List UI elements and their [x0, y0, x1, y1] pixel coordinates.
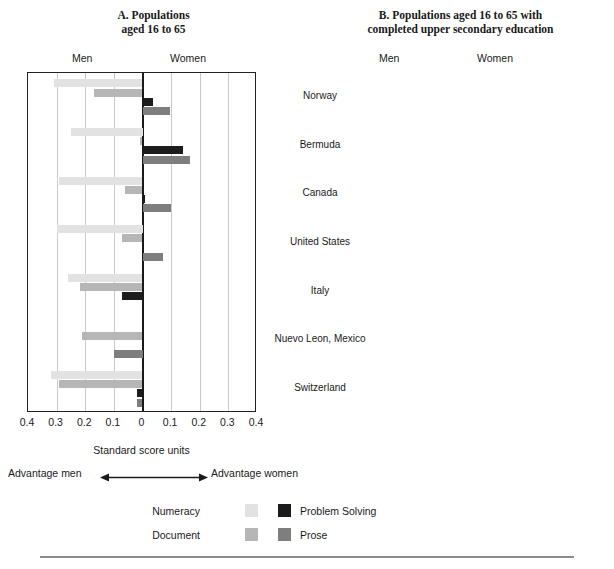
panel-a-advantage-men: Advantage men [8, 467, 82, 479]
legend-swatch-prose [278, 528, 291, 541]
country-label-column: NorwayBermudaCanadaUnited StatesItalyNue… [258, 72, 382, 412]
legend-item-problem_solving[interactable]: Problem Solving [0, 504, 614, 518]
panel-b-gender-headers: Men Women [307, 52, 614, 66]
legend-item-prose[interactable]: Prose [0, 528, 614, 542]
gridline [200, 73, 201, 411]
x-tick-a-8: 0.4 [244, 416, 268, 428]
panel-b-title-line1: B. Populations aged 16 to 65 with [307, 8, 614, 22]
country-label-norway: Norway [258, 90, 382, 101]
panel-a-gender-headers: Men Women [0, 52, 307, 66]
bar-a-nuevo-leon-mexico-document [82, 332, 142, 340]
bar-a-bermuda-problem-solving [143, 146, 183, 154]
legend-label-problem_solving: Problem Solving [300, 505, 376, 517]
panel-b-label-men: Men [379, 52, 399, 64]
bar-a-italy-document [80, 283, 143, 291]
x-tick-a-4: 0 [130, 416, 154, 428]
panel-a-double-arrow-icon [100, 473, 208, 482]
bar-a-norway-numeracy [54, 79, 143, 87]
panel-b-label-women: Women [477, 52, 513, 64]
bar-a-switzerland-problem-solving [137, 389, 143, 397]
gridline [171, 73, 172, 411]
country-label-italy: Italy [258, 285, 382, 296]
gridline [114, 73, 115, 411]
panel-a-title: A. Populations aged 16 to 65 [0, 8, 307, 36]
bar-a-united-states-document [122, 234, 142, 242]
bar-a-bermuda-numeracy [71, 128, 143, 136]
footer-divider [40, 556, 574, 558]
x-tick-a-0: 0.4 [15, 416, 39, 428]
x-tick-a-7: 0.3 [215, 416, 239, 428]
x-tick-a-2: 0.2 [72, 416, 96, 428]
panel-a-x-axis-ticks: 0.40.30.20.100.10.20.30.4 [27, 416, 256, 430]
bar-a-norway-document [94, 89, 143, 97]
bar-a-norway-problem-solving [143, 98, 153, 106]
country-label-canada: Canada [258, 187, 382, 198]
bar-a-nuevo-leon-mexico-prose [114, 350, 143, 358]
panel-a-axis-label: Standard score units [27, 444, 256, 456]
panel-a-label-women: Women [170, 52, 206, 64]
bar-a-switzerland-numeracy [51, 371, 143, 379]
panel-a-title-line1: A. Populations [0, 8, 307, 22]
country-label-switzerland: Switzerland [258, 382, 382, 393]
bar-a-canada-document [125, 186, 142, 194]
bar-a-norway-prose [143, 107, 170, 115]
bar-a-switzerland-prose [137, 399, 143, 407]
x-tick-a-1: 0.3 [44, 416, 68, 428]
panel-b-title: B. Populations aged 16 to 65 with comple… [307, 8, 614, 36]
legend-swatch-problem_solving [278, 504, 291, 517]
bar-a-united-states-prose [143, 253, 163, 261]
panel-b-title-line2: completed upper secondary education [307, 22, 614, 36]
bar-a-canada-prose [143, 204, 172, 212]
gridline [228, 73, 229, 411]
x-tick-a-6: 0.2 [187, 416, 211, 428]
bar-a-switzerland-document [59, 380, 142, 388]
bar-a-italy-numeracy [68, 274, 142, 282]
x-tick-a-3: 0.1 [101, 416, 125, 428]
bar-a-bermuda-document [140, 137, 143, 145]
bar-a-bermuda-prose [143, 156, 190, 164]
panel-a-label-men: Men [72, 52, 92, 64]
panel-a-advantage-women: Advantage women [211, 467, 298, 479]
panel-a-advantage-row: Advantage men Advantage women [8, 466, 298, 482]
bar-a-canada-problem-solving [143, 195, 145, 203]
country-label-nuevo-leon-mexico: Nuevo Leon, Mexico [258, 333, 382, 344]
country-label-bermuda: Bermuda [258, 139, 382, 150]
bar-a-italy-problem-solving [122, 292, 142, 300]
panel-a-plot-area [27, 72, 256, 412]
panel-a-title-line2: aged 16 to 65 [0, 22, 307, 36]
gridline [85, 73, 86, 411]
legend-label-prose: Prose [300, 529, 327, 541]
gridline [57, 73, 58, 411]
country-label-united-states: United States [258, 236, 382, 247]
bar-a-united-states-numeracy [57, 225, 143, 233]
bar-a-canada-numeracy [59, 177, 142, 185]
x-tick-a-5: 0.1 [158, 416, 182, 428]
chart-legend: NumeracyProblem SolvingDocumentProse [0, 500, 614, 552]
